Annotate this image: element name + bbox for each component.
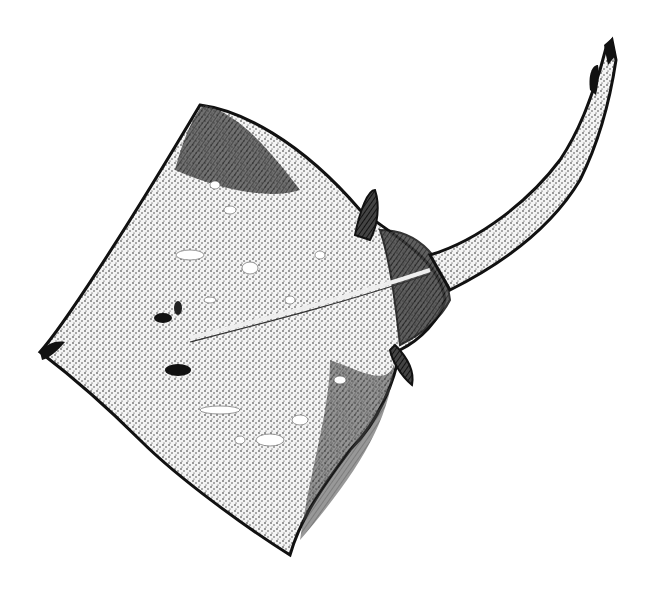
eye-right [165,364,191,376]
eye-left [154,313,172,323]
illustration-canvas [0,0,652,589]
spiracle [174,301,182,315]
skate-tail [430,40,616,290]
skate-illustration [0,0,652,589]
